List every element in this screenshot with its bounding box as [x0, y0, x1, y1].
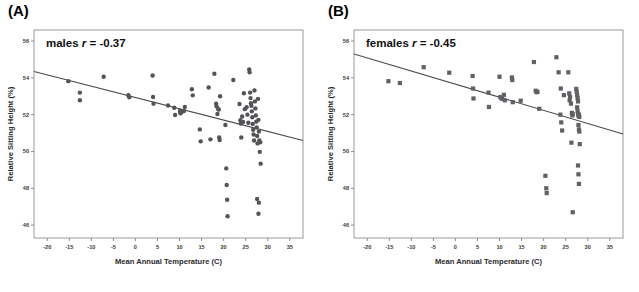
data-point — [447, 71, 451, 75]
data-point — [471, 74, 475, 78]
data-point — [182, 109, 186, 113]
x-tick-label: 10 — [496, 244, 502, 250]
data-point — [254, 125, 258, 129]
data-point — [250, 109, 254, 113]
y-axis-title: Relative Sitting Height (%) — [326, 86, 335, 181]
data-point — [487, 105, 491, 109]
data-point — [398, 81, 402, 85]
data-point — [567, 91, 571, 95]
data-point — [566, 70, 570, 74]
data-point — [231, 78, 235, 82]
scatter-points — [386, 55, 582, 214]
data-point — [256, 118, 260, 122]
data-point — [241, 120, 245, 124]
data-point — [578, 142, 582, 146]
y-tick-label: 46 — [23, 222, 29, 228]
x-axis-title: Mean Annual Temperature (C) — [115, 257, 223, 266]
data-point — [253, 106, 257, 110]
data-point — [575, 105, 579, 109]
x-tick-label: 30 — [265, 244, 271, 250]
data-point — [257, 200, 261, 204]
data-point — [545, 191, 549, 195]
data-point — [576, 163, 580, 167]
data-point — [172, 105, 176, 109]
data-point — [560, 128, 564, 132]
data-point — [237, 102, 241, 106]
data-point — [252, 138, 256, 142]
data-point — [215, 112, 219, 116]
correlation-annotation: males r = -0.37 — [46, 37, 126, 49]
data-point — [576, 99, 580, 103]
data-point — [258, 140, 262, 144]
x-tick-label: 5 — [476, 244, 479, 250]
data-point — [471, 86, 475, 90]
panel-b-svg: 464850525456-20-15-10-505101520253035Mea… — [320, 0, 639, 292]
data-point — [151, 101, 155, 105]
data-point — [247, 70, 251, 74]
x-tick-label: -5 — [431, 244, 436, 250]
data-point — [66, 79, 70, 83]
data-point — [558, 113, 562, 117]
data-point — [503, 98, 507, 102]
data-point — [217, 138, 221, 142]
data-point — [256, 97, 260, 101]
x-tick-label: 10 — [176, 244, 182, 250]
data-point — [252, 88, 256, 92]
data-point — [576, 172, 580, 176]
y-tick-label: 50 — [343, 148, 349, 154]
data-point — [559, 120, 563, 124]
data-point — [223, 123, 227, 127]
data-point — [166, 103, 170, 107]
x-tick-label: -15 — [65, 244, 73, 250]
data-point — [568, 95, 572, 99]
data-point — [206, 85, 210, 89]
y-tick-label: 48 — [23, 185, 29, 191]
data-point — [173, 113, 177, 117]
data-point — [577, 130, 581, 134]
panel-b: (B) 464850525456-20-15-10-50510152025303… — [320, 0, 639, 292]
data-point — [256, 212, 260, 216]
data-point — [198, 139, 202, 143]
data-point — [224, 166, 228, 170]
x-tick-label: 20 — [221, 244, 227, 250]
data-point — [101, 75, 105, 79]
data-point — [239, 135, 243, 139]
data-point — [240, 114, 244, 118]
data-point — [544, 186, 548, 190]
correlation-annotation: females r = -0.45 — [366, 37, 456, 49]
panel-b-plot: 464850525456-20-15-10-505101520253035Mea… — [320, 0, 639, 292]
data-point — [497, 75, 501, 79]
data-point — [562, 93, 566, 97]
data-point — [245, 112, 249, 116]
data-point — [577, 115, 581, 119]
x-tick-label: 30 — [585, 244, 591, 250]
data-point — [225, 183, 229, 187]
y-tick-label: 56 — [343, 38, 349, 44]
y-tick-label: 48 — [343, 185, 349, 191]
y-tick-label: 46 — [343, 222, 349, 228]
x-tick-label: -15 — [385, 244, 393, 250]
data-point — [217, 107, 221, 111]
data-point — [422, 65, 426, 69]
y-tick-label: 54 — [343, 75, 350, 81]
data-point — [532, 60, 536, 64]
x-tick-label: 35 — [607, 244, 613, 250]
plot-frame — [34, 30, 303, 238]
data-point — [559, 86, 563, 90]
data-point — [212, 72, 216, 76]
x-tick-label: 15 — [518, 244, 524, 250]
data-point — [471, 96, 475, 100]
data-point — [535, 90, 539, 94]
data-point — [254, 113, 258, 117]
data-point — [511, 100, 515, 104]
panel-a-plot: 464850525456-20-15-10-505101520253035Mea… — [0, 0, 319, 292]
data-point — [244, 105, 248, 109]
y-tick-label: 56 — [23, 38, 29, 44]
x-tick-label: 5 — [156, 244, 159, 250]
data-point — [386, 79, 390, 83]
data-point — [554, 55, 558, 59]
x-tick-label: 25 — [243, 244, 249, 250]
data-point — [576, 123, 580, 127]
data-point — [225, 198, 229, 202]
y-tick-label: 54 — [23, 75, 30, 81]
